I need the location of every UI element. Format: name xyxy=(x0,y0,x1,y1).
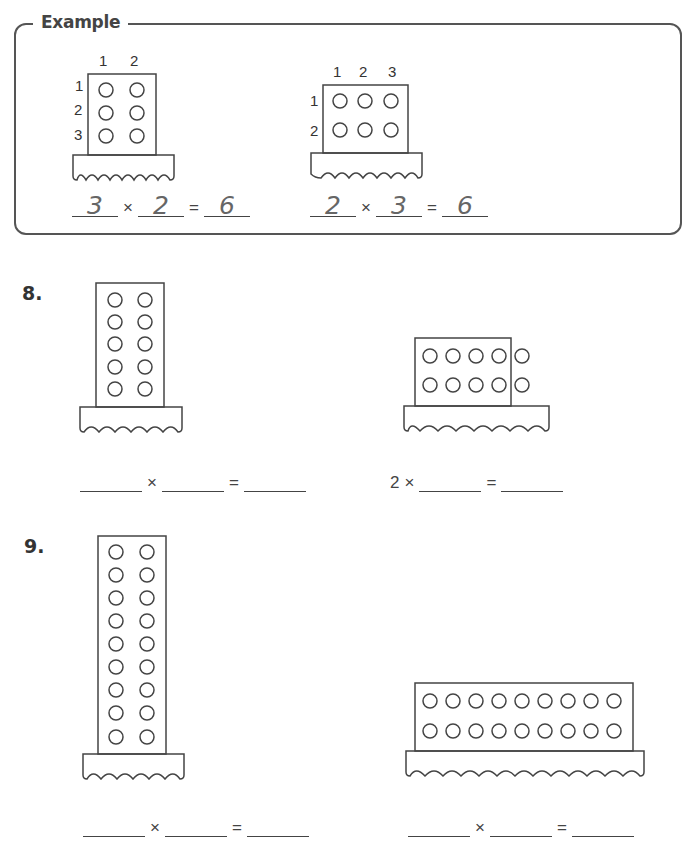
product-blank[interactable] xyxy=(572,816,634,837)
equals-sign: = xyxy=(552,819,572,837)
problem-9-right-array xyxy=(0,0,690,844)
problem-9-right-equation: × = xyxy=(408,816,634,837)
times-sign: × xyxy=(470,819,490,837)
factor-blank[interactable] xyxy=(408,816,470,837)
factor-blank[interactable] xyxy=(490,816,552,837)
